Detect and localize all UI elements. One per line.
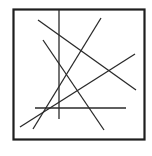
line-arrangement-figure (0, 0, 152, 156)
background (0, 0, 152, 156)
